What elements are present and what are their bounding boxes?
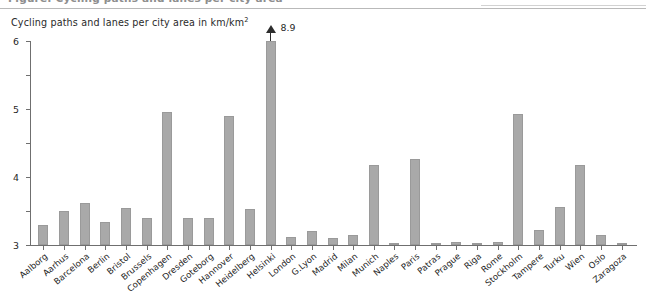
y-axis-tick: 1 [26, 211, 30, 212]
x-axis-tick [64, 246, 65, 250]
header-divider [0, 8, 646, 9]
x-axis-tick [188, 246, 189, 250]
bar[interactable] [617, 243, 627, 245]
bar[interactable] [142, 218, 152, 245]
bar[interactable] [162, 112, 172, 245]
bar[interactable] [451, 242, 461, 245]
x-axis-tick [312, 246, 313, 250]
x-axis-tick [415, 246, 416, 250]
y-axis-tick: 2 [26, 177, 30, 178]
y-axis-tick: 0 [26, 245, 30, 246]
bar[interactable] [224, 116, 234, 245]
bar[interactable] [245, 209, 255, 245]
y-axis-tick-label: 6 [13, 36, 19, 47]
bar[interactable] [100, 222, 110, 245]
bar[interactable] [555, 207, 565, 245]
plot-area: 0123456AalborgAarhusBarcelonaBerlinBrist… [30, 41, 637, 245]
y-axis-tick-label: 4 [13, 172, 19, 183]
x-axis-tick [271, 246, 272, 250]
header-divider-secondary [481, 5, 646, 6]
x-axis-tick [394, 246, 395, 250]
bar[interactable] [596, 235, 606, 245]
x-axis-tick [374, 246, 375, 250]
x-axis-tick [518, 246, 519, 250]
bar[interactable] [38, 225, 48, 245]
cut-off-header-text: Figure: Cycling paths and lanes per city… [8, 0, 283, 4]
bar[interactable] [348, 235, 358, 245]
x-axis-tick [539, 246, 540, 250]
x-axis-tick [456, 246, 457, 250]
x-axis-tick [229, 246, 230, 250]
x-axis-tick-label: Turku [542, 251, 566, 274]
x-axis-tick [580, 246, 581, 250]
bar[interactable] [328, 238, 338, 245]
x-axis-tick [250, 246, 251, 250]
x-axis-tick [498, 246, 499, 250]
x-axis-tick [436, 246, 437, 250]
bar[interactable] [534, 230, 544, 245]
bar[interactable] [410, 159, 420, 245]
x-axis-tick [209, 246, 210, 250]
bar[interactable] [307, 231, 317, 245]
y-axis-tick: 6 [26, 41, 30, 42]
bar[interactable] [204, 218, 214, 245]
bar[interactable] [575, 165, 585, 245]
bar[interactable] [493, 242, 503, 245]
x-axis-tick [333, 246, 334, 250]
bar[interactable] [513, 114, 523, 245]
y-axis-tick-label: 5 [13, 104, 19, 115]
bar[interactable] [266, 41, 276, 245]
bar[interactable] [431, 243, 441, 245]
bar[interactable] [389, 243, 399, 245]
overflow-value-label: 8.9 [281, 22, 296, 33]
bar[interactable] [80, 203, 90, 246]
x-axis-tick [167, 246, 168, 250]
x-axis-tick [601, 246, 602, 250]
bar[interactable] [472, 243, 482, 245]
chart-title: Cycling paths and lanes per city area in… [11, 16, 249, 28]
chart-title-text: Cycling paths and lanes per city area in… [11, 17, 244, 28]
x-axis-tick [477, 246, 478, 250]
chart-title-superscript: 2 [244, 16, 248, 24]
x-axis-line [30, 245, 637, 246]
bar[interactable] [121, 208, 131, 245]
bar[interactable] [59, 211, 69, 245]
y-axis-tick: 5 [26, 75, 30, 76]
y-axis-tick: 3 [26, 143, 30, 144]
x-axis-tick [353, 246, 354, 250]
y-axis-line [30, 41, 31, 246]
bar[interactable] [183, 218, 193, 245]
x-axis-tick [560, 246, 561, 250]
bar[interactable] [369, 165, 379, 245]
chart-page: Figure: Cycling paths and lanes per city… [0, 0, 646, 298]
x-axis-tick-label: Wien [564, 251, 587, 273]
x-axis-tick [105, 246, 106, 250]
y-axis-tick: 4 [26, 109, 30, 110]
x-axis-tick [622, 246, 623, 250]
bar[interactable] [286, 237, 296, 246]
x-axis-tick [85, 246, 86, 250]
x-axis-tick [147, 246, 148, 250]
y-axis-tick-label: 3 [13, 240, 19, 251]
x-axis-tick [126, 246, 127, 250]
overflow-arrow-icon [266, 25, 276, 33]
x-axis-tick [43, 246, 44, 250]
x-axis-tick [291, 246, 292, 250]
